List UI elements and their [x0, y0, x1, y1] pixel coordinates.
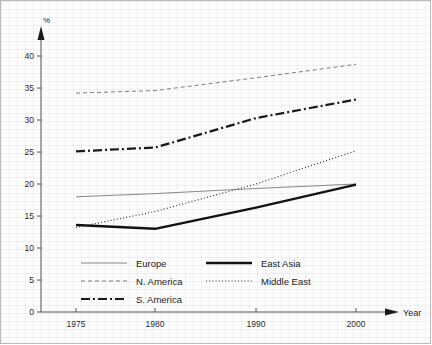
- series-line-s-america: [76, 100, 356, 152]
- chart-figure: 0510152025303540%1975198019902000YearEur…: [0, 0, 431, 344]
- legend-label-n-america: N. America: [136, 276, 183, 287]
- line-chart-plot: 0510152025303540%1975198019902000YearEur…: [1, 1, 431, 344]
- y-tick-label: 30: [25, 115, 35, 125]
- x-axis-arrow-icon: [385, 309, 399, 316]
- y-tick-label: 35: [25, 83, 35, 93]
- legend-label-east-asia: East Asia: [261, 258, 301, 269]
- y-tick-label: 25: [25, 147, 35, 157]
- legend-label-europe: Europe: [136, 258, 167, 269]
- y-tick-label: 0: [29, 307, 34, 317]
- series-line-n-america: [76, 64, 356, 93]
- x-tick-label: 1975: [67, 319, 86, 329]
- legend-label-middle-east: Middle East: [261, 276, 311, 287]
- y-tick-label: 5: [29, 275, 34, 285]
- series-line-east-asia: [76, 185, 356, 229]
- y-tick-label: 15: [25, 211, 35, 221]
- x-axis-title: Year: [403, 308, 421, 318]
- y-axis-arrow-icon: [38, 26, 45, 40]
- x-tick-label: 1980: [146, 319, 165, 329]
- y-axis-unit-label: %: [43, 16, 50, 25]
- y-tick-label: 10: [25, 243, 35, 253]
- legend-label-s-america: S. America: [136, 294, 183, 305]
- x-tick-label: 2000: [347, 319, 366, 329]
- y-tick-label: 40: [25, 51, 35, 61]
- y-tick-label: 20: [25, 179, 35, 189]
- x-tick-label: 1990: [247, 319, 266, 329]
